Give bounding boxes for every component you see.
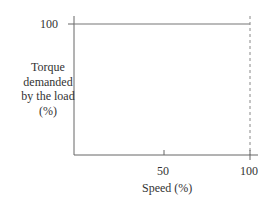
y-axis-title-line: by the load xyxy=(12,89,84,104)
y-axis-title: Torque demanded by the load (%) xyxy=(12,60,84,118)
y-tick-label-100: 100 xyxy=(40,17,58,31)
x-tick-label-100: 100 xyxy=(240,164,258,178)
y-axis-title-line: demanded xyxy=(12,75,84,90)
y-axis-title-line: (%) xyxy=(12,104,84,119)
x-axis-title: Speed (%) xyxy=(142,181,192,195)
y-axis-title-line: Torque xyxy=(12,60,84,75)
x-tick-label-50: 50 xyxy=(157,164,169,178)
